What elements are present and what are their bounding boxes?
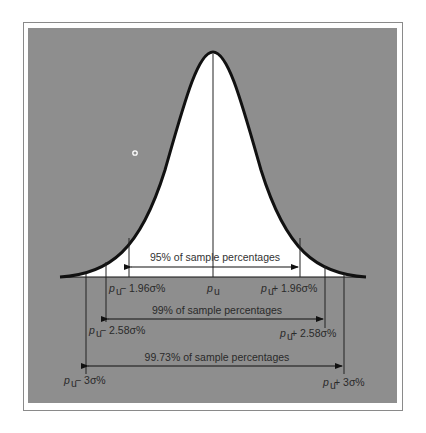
svg-text:p: p [63,374,70,386]
svg-text:p: p [260,282,267,294]
dot-marker [133,151,137,155]
label-lower-258: p u − 2.58σ% [88,324,145,339]
label-9973: 99.73% of sample percentages [145,351,290,363]
svg-text:− 2.58σ%: − 2.58σ% [100,324,145,336]
label-center: p u [206,282,220,297]
label-upper-196: p u + 1.96σ% [260,282,317,297]
label-lower-196: p u − 1.96σ% [108,282,165,297]
svg-text:− 1.96σ%: − 1.96σ% [120,282,165,294]
svg-text:− 3σ%: − 3σ% [75,374,106,386]
label-upper-3: p u + 3σ% [322,376,365,391]
normal-distribution-diagram: 95% of sample percentages 99% of sample … [0,0,426,433]
svg-text:p: p [108,282,115,294]
svg-text:u: u [214,285,220,297]
svg-text:p: p [206,282,213,294]
label-95: 95% of sample percentages [150,251,280,263]
label-upper-258: p u + 2.58σ% [279,327,336,342]
svg-text:p: p [279,327,286,339]
svg-text:p: p [88,324,95,336]
label-99: 99% of sample percentages [152,304,282,316]
svg-text:+ 2.58σ%: + 2.58σ% [291,327,336,339]
svg-text:p: p [322,376,329,388]
svg-text:+ 3σ%: + 3σ% [334,376,365,388]
svg-text:+ 1.96σ%: + 1.96σ% [272,282,317,294]
label-lower-3: p u − 3σ% [63,374,106,389]
